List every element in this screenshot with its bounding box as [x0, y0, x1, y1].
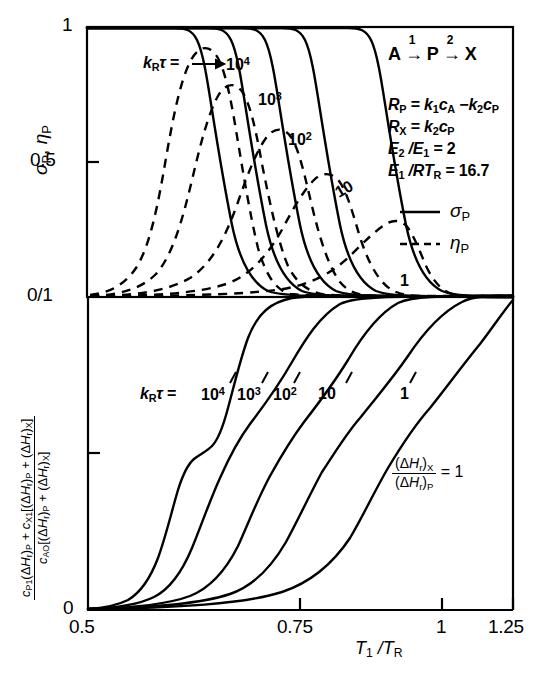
equation-e2e1: E2 /E1 = 2	[388, 140, 456, 159]
upper-curve-label-1e2: 102	[288, 130, 312, 149]
upper-ylabel: σP, ηP	[30, 125, 54, 175]
upper-krtau-label: kRτ =	[143, 54, 179, 73]
lower-curve-label-10: 10	[318, 385, 336, 403]
lower-curve-1e1	[88, 296, 513, 609]
lower-ylabel-denominator: cAO[(ΔHr)P + (ΔHr)X]	[34, 416, 51, 600]
lower-ylabel-numerator: cP1(ΔHr)P + cX1[(ΔHr)P + (ΔHr)X]	[18, 416, 34, 600]
lower-panel-curves	[88, 295, 513, 609]
krtau-eq: =	[166, 54, 179, 71]
lower-ylabel-fraction: cP1(ΔHr)P + cX1[(ΔHr)P + (ΔHr)X] cAO[(ΔH…	[18, 416, 52, 600]
enthalpy-ratio-equals: = 1	[436, 463, 463, 480]
scheme-arrow2: →	[443, 44, 461, 64]
scheme-n2: 2	[447, 33, 453, 47]
lower-curve-label-1e3: 103	[237, 385, 261, 404]
xtick-1p25: 1.25	[488, 616, 524, 638]
upper-ylabel-eta-sub: P	[39, 125, 54, 134]
lower-curve-label-1e2: 102	[273, 385, 297, 404]
lower-ylabel: cP1(ΔHr)P + cX1[(ΔHr)P + (ΔHr)X] cAO[(ΔH…	[18, 416, 52, 600]
lower-krtau-label: kRτ =	[140, 385, 176, 404]
legend-label-eta: ηP	[450, 232, 469, 256]
enthalpy-ratio-numerator: (ΔHr)X	[392, 455, 436, 473]
enthalpy-ratio-annotation: (ΔHr)X (ΔHr)P = 1	[392, 455, 464, 491]
upper-curve-label-1e4: 104	[226, 55, 250, 74]
scheme-a: A	[388, 44, 401, 64]
equation-e1rtr: E1 /RTR = 16.7	[388, 162, 489, 181]
legend-label-sigma: σP	[450, 200, 470, 224]
krtau-arrow-upper	[192, 60, 224, 68]
eta-curve-1e3	[90, 85, 513, 296]
xaxis-label: T1 /TR	[355, 638, 403, 660]
xtick-1: 1	[436, 616, 446, 638]
reaction-scheme: A 1 → P 2 → X	[388, 44, 476, 65]
scheme-p: P	[427, 44, 439, 64]
lower-curve-1e2	[88, 297, 513, 609]
krtau-k: k	[143, 54, 152, 71]
equation-rp: RP = k1cA −k2cP	[388, 96, 499, 115]
scheme-x: X	[465, 44, 477, 64]
enthalpy-ratio-fraction: (ΔHr)X (ΔHr)P	[392, 455, 436, 491]
upper-ylabel-sigma: σ	[30, 164, 51, 175]
upper-curve-label-1: 1	[400, 272, 409, 290]
xtick-0p75: 0.75	[277, 616, 313, 638]
upper-ylabel-eta: η	[30, 134, 51, 145]
scheme-arrow1: →	[405, 44, 423, 64]
scheme-n1: 1	[409, 33, 415, 47]
lower-curve-1e4	[88, 295, 513, 609]
upper-ytick-1: 1	[62, 14, 72, 36]
lower-curve-label-1e4: 104	[201, 385, 225, 404]
lower-curve-label-1: 1	[400, 385, 409, 403]
lower-panel-axes	[87, 297, 513, 610]
lower-curve-1e3	[88, 297, 513, 609]
upper-ylabel-sigma-sub: P	[39, 155, 54, 164]
xtick-0p5: 0.5	[69, 616, 95, 638]
equation-rx: RX = k2cP	[388, 118, 454, 137]
upper-ylabel-comma: ,	[30, 144, 51, 155]
enthalpy-ratio-denominator: (ΔHr)P	[392, 473, 436, 492]
upper-curve-label-1e3: 103	[258, 90, 282, 109]
